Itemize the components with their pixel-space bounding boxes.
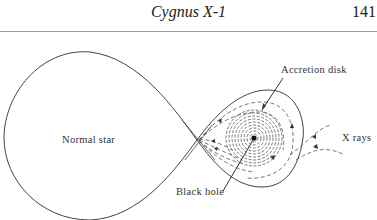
x-rays-label: X rays [342,132,372,143]
binary-system-diagram: Normal star Accretion disk X rays Black … [0,0,377,220]
x-ray-arrow-icons [312,134,318,149]
black-hole-label: Black hole [176,186,224,197]
x-ray-paths [290,125,345,160]
normal-star-label: Normal star [62,134,115,145]
black-hole-leader [223,140,253,191]
black-hole-dot [251,135,256,140]
accretion-disk-label: Accretion disk [281,64,347,75]
